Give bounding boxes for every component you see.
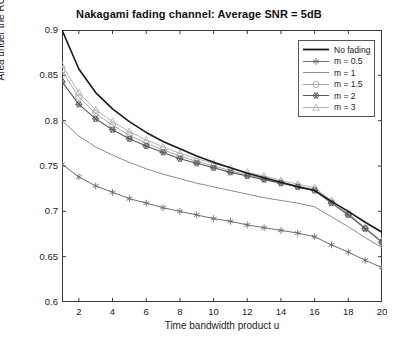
y-tick-label: 0.85	[18, 69, 58, 80]
legend-item-0[interactable]: No fading	[302, 44, 370, 56]
y-tick-label: 0.9	[18, 24, 58, 35]
x-tick-label: 8	[165, 306, 195, 317]
chart-legend: No fadingm = 0.5m = 1m = 1.5m = 2m = 3	[298, 40, 375, 117]
legend-item-1[interactable]: m = 0.5	[302, 56, 370, 68]
chart-title: Nakagami fading channel: Average SNR = 5…	[0, 8, 398, 20]
legend-label: m = 0.5	[330, 56, 363, 66]
legend-swatch	[302, 44, 330, 55]
y-tick-label: 0.6	[18, 296, 58, 307]
legend-item-4[interactable]: m = 2	[302, 90, 370, 102]
series-2	[62, 121, 382, 248]
x-axis-label: Time bandwidth product u	[62, 320, 382, 331]
legend-label: No fading	[330, 45, 370, 55]
series-1	[62, 161, 382, 271]
x-tick-label: 20	[367, 306, 397, 317]
x-tick-label: 18	[333, 306, 363, 317]
legend-swatch	[302, 67, 330, 78]
legend-swatch	[302, 102, 330, 113]
x-tick-label: 12	[232, 306, 262, 317]
y-tick-label: 0.75	[18, 160, 58, 171]
legend-swatch	[302, 56, 330, 67]
legend-item-2[interactable]: m = 1	[302, 67, 370, 79]
legend-label: m = 3	[330, 102, 356, 112]
x-tick-label: 10	[199, 306, 229, 317]
y-tick-label: 0.8	[18, 115, 58, 126]
x-tick-label: 2	[64, 306, 94, 317]
x-tick-label: 6	[131, 306, 161, 317]
x-tick-label: 14	[266, 306, 296, 317]
legend-label: m = 1	[330, 68, 356, 78]
y-axis-label-text: Area under the ROC curve A	[0, 0, 6, 81]
chart-figure: Nakagami fading channel: Average SNR = 5…	[0, 0, 398, 341]
x-tick-label: 16	[300, 306, 330, 317]
y-tick-label: 0.65	[18, 251, 58, 262]
legend-label: m = 1.5	[330, 79, 363, 89]
legend-swatch	[302, 79, 330, 90]
legend-swatch	[302, 90, 330, 101]
y-tick-label: 0.7	[18, 205, 58, 216]
legend-item-5[interactable]: m = 3	[302, 102, 370, 114]
x-tick-label: 4	[98, 306, 128, 317]
legend-label: m = 2	[330, 91, 356, 101]
legend-item-3[interactable]: m = 1.5	[302, 79, 370, 91]
y-axis-label: Area under the ROC curve Az	[0, 0, 9, 105]
